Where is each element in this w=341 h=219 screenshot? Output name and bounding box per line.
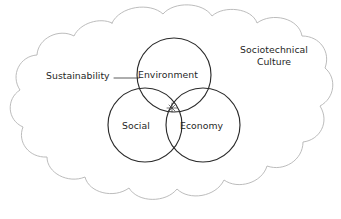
diagram-root: Sustainability Environment Social Econom… (0, 0, 341, 219)
label-social: Social (122, 120, 150, 131)
label-sociotechnical-culture: Sociotechnical Culture (238, 44, 310, 67)
cloud-outline (10, 5, 333, 200)
label-sustainability: Sustainability (46, 70, 110, 81)
sociotechnical-line-2: Culture (238, 56, 310, 68)
diagram-canvas (0, 0, 341, 219)
label-economy: Economy (180, 120, 223, 131)
label-environment: Environment (138, 69, 198, 80)
sociotechnical-line-1: Sociotechnical (238, 44, 310, 56)
